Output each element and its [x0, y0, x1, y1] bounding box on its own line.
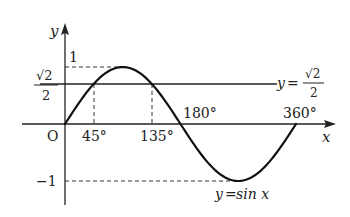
- y-tick-sqrt2-over-2: √2 2: [34, 68, 58, 103]
- line-label: y = √2 2: [276, 67, 324, 100]
- x-tick-135: 135°: [140, 128, 174, 144]
- sine-diagram: y x O 1 −1 √2 2 45° 135° 180° 360° y = √…: [0, 0, 350, 217]
- y-tick-numerator: √2: [36, 68, 53, 83]
- origin-label: O: [47, 128, 58, 144]
- curve-label-eq: =: [225, 186, 237, 202]
- x-tick-360: 360°: [283, 105, 317, 121]
- curve-label: y = sin x: [214, 186, 269, 202]
- line-label-num: √2: [305, 67, 320, 81]
- y-tick-neg1: −1: [36, 173, 57, 189]
- x-axis-label: x: [322, 128, 331, 146]
- line-label-den: 2: [310, 86, 318, 100]
- x-tick-45: 45°: [82, 128, 107, 144]
- line-label-eq: =: [287, 75, 299, 91]
- curve-label-rhs: sin x: [236, 186, 269, 202]
- y-tick-denominator: 2: [42, 88, 50, 103]
- y-axis-label: y: [49, 22, 59, 40]
- line-label-lhs: y: [276, 75, 286, 91]
- curve-label-lhs: y: [214, 186, 224, 202]
- y-tick-1: 1: [69, 49, 78, 65]
- x-tick-180: 180°: [183, 105, 217, 121]
